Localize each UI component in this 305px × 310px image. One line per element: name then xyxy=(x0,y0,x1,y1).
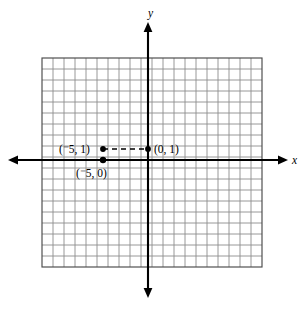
point-label-neg5-1: (⁻5, 1) xyxy=(59,143,90,156)
point-marker-neg5-1[interactable] xyxy=(100,146,106,152)
point-marker-0-1[interactable] xyxy=(145,146,151,152)
point-marker-neg5-0[interactable] xyxy=(100,157,106,163)
point-label-neg5-0: (⁻5, 0) xyxy=(76,167,107,180)
y-axis-arrow-down xyxy=(144,288,153,298)
x-axis-arrow-right xyxy=(278,156,288,165)
y-axis-arrow-up xyxy=(144,22,153,32)
y-axis-label: y xyxy=(147,7,154,20)
coordinate-plane-figure: (⁻5, 1) (0, 1) (⁻5, 0) y x xyxy=(0,0,305,310)
grid-lines xyxy=(42,58,262,267)
graph-canvas: (⁻5, 1) (0, 1) (⁻5, 0) y x xyxy=(0,0,305,310)
x-axis-arrow-left xyxy=(8,156,18,165)
point-label-0-1: (0, 1) xyxy=(154,143,179,156)
x-axis-label: x xyxy=(291,154,298,166)
